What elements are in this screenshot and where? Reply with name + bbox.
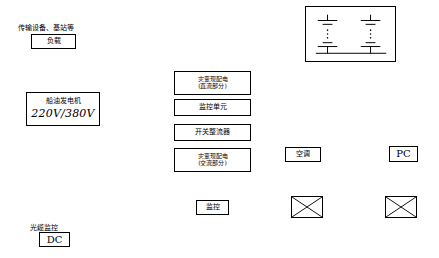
node-switch-rectifier-label: 开关整流器 <box>195 128 230 136</box>
crossed-box-icon-1 <box>291 196 323 218</box>
crossed-box-icon-2 <box>385 196 417 218</box>
node-monitor-unit: 监控单元 <box>174 99 251 116</box>
node-pc: PC <box>389 146 418 162</box>
battery-bank-icon <box>305 6 396 62</box>
node-load-label: 负载 <box>47 37 61 45</box>
node-fiber-monitor-label: 光缆监控 <box>30 222 58 232</box>
node-generator-label: 船油发电机 <box>46 97 81 105</box>
node-monitor: 监控 <box>196 200 229 215</box>
node-fire-power-dc: 灾变现配电 (直流部分) <box>174 71 251 95</box>
node-load: 负载 <box>31 34 76 49</box>
node-monitor-label: 监控 <box>206 203 220 211</box>
node-monitor-unit-label: 监控单元 <box>199 103 227 111</box>
diagram-canvas: 传输设备、基站等 负载 船油发电机 220V/380V 光缆监控 DC 灾变现配… <box>0 0 439 258</box>
node-fire-power-ac-line2: (交流部分) <box>198 160 227 167</box>
node-generator: 船油发电机 220V/380V <box>26 92 100 126</box>
node-air-conditioner: 空调 <box>285 147 321 162</box>
node-dc-label: DC <box>47 234 63 246</box>
node-fire-power-dc-line2: (直流部分) <box>198 83 227 90</box>
node-air-conditioner-label: 空调 <box>296 150 310 158</box>
diagram-title-text: 传输设备、基站等 <box>18 22 74 32</box>
node-fire-power-ac: 灾变现配电 (交流部分) <box>174 148 251 172</box>
node-pc-label: PC <box>396 148 410 160</box>
node-switch-rectifier: 开关整流器 <box>174 124 251 141</box>
node-generator-voltage: 220V/380V <box>31 108 94 121</box>
node-dc: DC <box>39 232 70 247</box>
